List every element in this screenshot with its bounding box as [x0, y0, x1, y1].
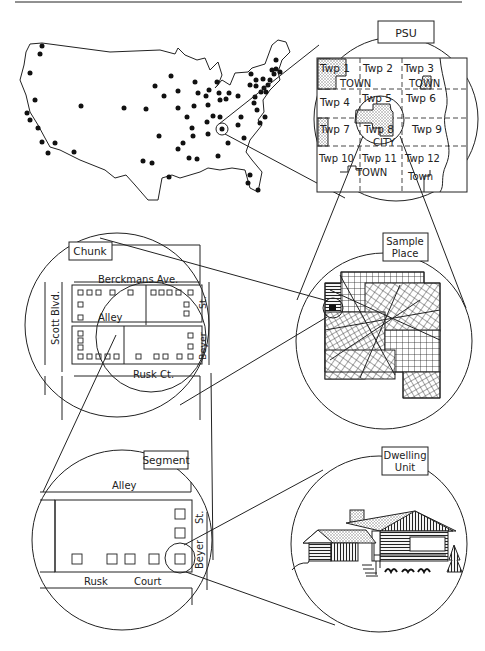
- chunk-alley-label: Alley: [98, 312, 123, 323]
- psu-panel: PSU Twp 1 Twp 2 Twp 3 TOWN TOWN Twp 4 Tw…: [314, 21, 478, 201]
- sample-place-label-line1: Sample: [386, 236, 424, 247]
- chunk-dwelling-squares: [78, 290, 193, 359]
- segment-dwelling-squares: [72, 509, 185, 564]
- psu-label: PSU: [395, 27, 417, 40]
- twp-7: Twp 7: [319, 123, 350, 135]
- town-1: TOWN: [339, 78, 371, 89]
- evergreen-tree: [447, 545, 462, 572]
- segment-alley-label: Alley: [112, 480, 137, 491]
- town-3: TOWN: [408, 78, 440, 89]
- us-map: [20, 40, 290, 200]
- chunk-label: Chunk: [73, 245, 107, 257]
- segment-label: Segment: [142, 454, 189, 466]
- chunk-location-marker: [329, 305, 336, 311]
- street-rusk-ct: Rusk Ct.: [133, 369, 174, 380]
- picture-window: [410, 537, 445, 551]
- dwelling-unit-label-line2: Unit: [395, 462, 415, 473]
- segment-st-label: St.: [194, 511, 205, 524]
- city-label: CITY: [373, 137, 396, 148]
- sample-place-panel: Sample Place: [296, 233, 472, 429]
- segment-panel: Segment Alley Rusk Court Beyer St.: [32, 450, 212, 630]
- twp-1: Twp 1: [319, 62, 350, 74]
- street-berckmans: Berckmans Ave.: [98, 274, 178, 285]
- segment-rusk-label: Rusk: [84, 576, 108, 587]
- twp-9: Twp 9: [411, 123, 442, 135]
- sampling-diagram: PSU Twp 1 Twp 2 Twp 3 TOWN TOWN Twp 4 Tw…: [0, 0, 485, 651]
- twp-8: Twp 8: [363, 123, 394, 135]
- twp-5: Twp 5: [361, 92, 392, 104]
- chunk-panel: Chunk Berckmans Ave. Alley Rusk Ct. Scot…: [25, 233, 209, 420]
- shrubs: [385, 569, 430, 572]
- sample-place-label-line2: Place: [392, 248, 419, 259]
- svg-text:Twp 1: Twp 1: [319, 62, 350, 74]
- selected-dwelling-square: [175, 554, 185, 564]
- twp-6: Twp 6: [405, 92, 436, 104]
- town-12: Town: [407, 171, 433, 182]
- twp-3: Twp 3: [403, 62, 434, 74]
- segment-beyer-label: Beyer: [194, 539, 205, 569]
- twp-10: Twp 10: [318, 153, 354, 164]
- street-scott-blvd: Scott Blvd.: [50, 291, 61, 345]
- dwelling-unit-panel: Dwelling Unit: [291, 447, 467, 632]
- twp-12: Twp 12: [404, 153, 440, 164]
- street-beyer: Beyer: [197, 332, 208, 360]
- street-st-suffix: St.: [197, 296, 208, 309]
- town-11: TOWN: [355, 167, 387, 178]
- twp-2: Twp 2: [362, 62, 393, 74]
- segment-court-label: Court: [134, 576, 162, 587]
- twp-11: Twp 11: [361, 153, 397, 164]
- twp-4: Twp 4: [319, 96, 350, 108]
- dwelling-unit-label-line1: Dwelling: [383, 450, 426, 461]
